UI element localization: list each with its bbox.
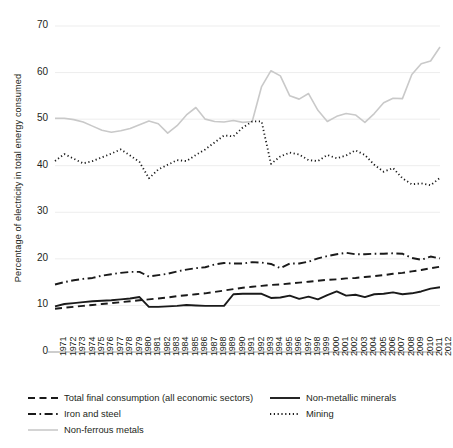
- series-line: [55, 121, 440, 185]
- x-axis-tick-label: 1994: [274, 337, 284, 356]
- series-line: [55, 267, 440, 309]
- legend-item[interactable]: Non-metallic minerals: [270, 392, 396, 403]
- legend-item[interactable]: Non-ferrous metals: [28, 424, 144, 435]
- y-axis-tick-label: 10: [22, 298, 48, 309]
- legend-item[interactable]: Total final consumption (all economic se…: [28, 392, 253, 403]
- legend-item[interactable]: Iron and steel: [28, 408, 121, 419]
- y-axis-tick-label: 0: [22, 345, 48, 356]
- x-axis-tick-label: 2004: [368, 337, 378, 356]
- legend-label: Total final consumption (all economic se…: [64, 392, 253, 403]
- series-layer: [55, 47, 440, 309]
- series-line: [55, 253, 440, 285]
- gridlines: [55, 26, 440, 305]
- x-axis-tick-label: 2002: [349, 337, 359, 356]
- legend-label: Non-ferrous metals: [64, 424, 144, 435]
- legend-item[interactable]: Mining: [270, 408, 334, 419]
- x-axis-tick-label: 2007: [396, 337, 406, 356]
- legend-label: Iron and steel: [64, 408, 121, 419]
- chart-legend: Total final consumption (all economic se…: [0, 390, 449, 448]
- x-axis-tick-label: 1973: [77, 337, 87, 356]
- x-axis-tick-label: 1971: [58, 337, 68, 356]
- x-axis-tick-label: 1981: [152, 337, 162, 356]
- legend-swatch-icon: [270, 409, 300, 419]
- legend-swatch-icon: [270, 393, 300, 403]
- x-axis-tick-label: 1978: [124, 337, 134, 356]
- legend-label: Non-metallic minerals: [306, 392, 396, 403]
- x-axis-tick-label: 1999: [321, 337, 331, 356]
- x-axis-tick-label: 2009: [415, 337, 425, 356]
- x-axis-tick-label: 1989: [227, 337, 237, 356]
- legend-swatch-icon: [28, 425, 58, 435]
- y-axis-tick-label: 70: [22, 19, 48, 30]
- legend-swatch-icon: [28, 393, 58, 403]
- legend-swatch-icon: [28, 409, 58, 419]
- y-axis-tick-label: 40: [22, 159, 48, 170]
- series-line: [55, 47, 440, 133]
- y-axis-tick-label: 60: [22, 66, 48, 77]
- y-axis-tick-label: 20: [22, 252, 48, 263]
- x-axis-tick-label: 1976: [105, 337, 115, 356]
- x-axis-tick-label: 1986: [199, 337, 209, 356]
- x-axis-tick-label: 1996: [293, 337, 303, 356]
- x-axis-tick-label: 2012: [443, 337, 453, 356]
- x-axis-tick-label: 1984: [180, 337, 190, 356]
- legend-label: Mining: [306, 408, 334, 419]
- y-axis-tick-label: 50: [22, 112, 48, 123]
- x-axis-tick-label: 1991: [246, 337, 256, 356]
- y-axis-tick-label: 30: [22, 205, 48, 216]
